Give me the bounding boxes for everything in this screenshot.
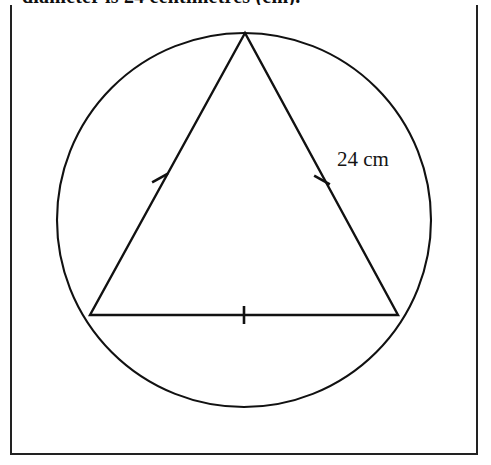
side-length-label: 24 cm: [337, 147, 389, 171]
geometry-diagram: 24 cm: [0, 0, 491, 465]
circumscribed-circle-icon: [57, 33, 431, 407]
inscribed-triangle-icon: [90, 33, 398, 315]
